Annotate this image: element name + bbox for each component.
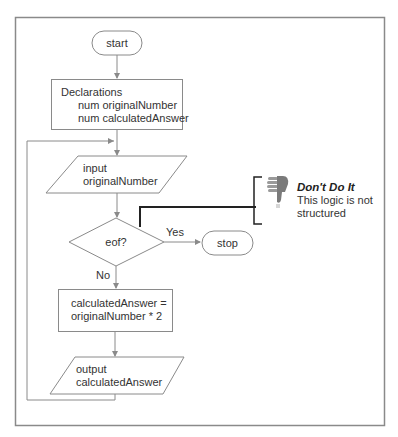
callout-line-1: This logic is not xyxy=(297,194,373,206)
output-parallelogram: output calculatedAnswer xyxy=(50,357,184,394)
decision-label: eof? xyxy=(105,236,126,248)
callout-line-2: structured xyxy=(297,207,346,219)
callout-title: Don't Do It xyxy=(297,181,356,193)
stop-label: stop xyxy=(217,237,238,249)
start-terminal: start xyxy=(92,31,142,55)
declarations-line-1: num originalNumber xyxy=(78,99,177,111)
output-line-2: calculatedAnswer xyxy=(76,376,163,388)
loop-arrowhead xyxy=(108,138,114,144)
decision-diamond: eof? xyxy=(69,218,164,266)
no-label: No xyxy=(96,269,110,281)
process-line-1: calculatedAnswer = xyxy=(71,297,167,309)
flowchart-diagram: start Declarations num originalNumber nu… xyxy=(0,0,398,437)
output-line-1: output xyxy=(76,363,107,375)
start-label: start xyxy=(106,37,127,49)
yes-label: Yes xyxy=(166,226,184,238)
stop-terminal: stop xyxy=(202,231,253,255)
input-line-2: originalNumber xyxy=(83,175,158,187)
input-parallelogram: input originalNumber xyxy=(46,156,187,193)
input-line-1: input xyxy=(83,162,107,174)
declarations-line-2: num calculatedAnswer xyxy=(78,112,189,124)
declarations-title: Declarations xyxy=(61,86,123,98)
declarations-box: Declarations num originalNumber num calc… xyxy=(52,80,190,130)
thumbs-down-icon xyxy=(267,176,288,208)
process-line-2: originalNumber * 2 xyxy=(71,310,162,322)
process-box: calculatedAnswer = originalNumber * 2 xyxy=(59,290,173,332)
